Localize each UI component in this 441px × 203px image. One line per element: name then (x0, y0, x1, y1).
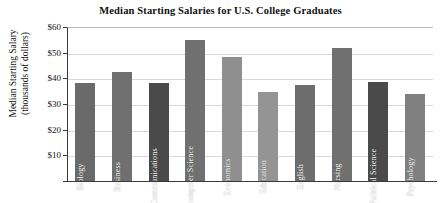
bar-category-label: Computer Science (186, 146, 195, 203)
y-axis-tick-labels: $10$20$30$40$50$60 (33, 0, 61, 203)
y-axis-title-line-1: Median Starting Salary (8, 12, 20, 136)
y-axis-tick-label: $20 (33, 125, 61, 135)
bar[interactable]: Computer Science (185, 40, 205, 181)
bar-chart-figure: Median Starting Salaries for U.S. Colleg… (0, 0, 441, 203)
bar[interactable]: Education (258, 92, 278, 181)
x-axis-baseline (63, 181, 437, 182)
bar[interactable]: Political Science (368, 82, 388, 181)
y-axis-tick-label: $10 (33, 150, 61, 160)
bar-category-label: Business (113, 162, 122, 192)
bar[interactable]: Economics (222, 57, 242, 181)
bar-category-label: Political Science (369, 149, 378, 203)
bars-layer: BiologyBusinessCommunicationsComputer Sc… (67, 27, 433, 181)
bar-category-label: Economics (223, 158, 232, 195)
bar-category-label: English (296, 164, 305, 190)
bar-category-label: Psychology (406, 157, 415, 196)
y-axis-title: Median Starting Salary (thousands of dol… (8, 12, 31, 136)
bar[interactable]: Biology (75, 83, 95, 181)
y-axis-tick-label: $30 (33, 99, 61, 109)
bar[interactable]: English (295, 85, 315, 181)
bar[interactable]: Psychology (405, 94, 425, 181)
bar[interactable]: Business (112, 72, 132, 181)
bar[interactable]: Nursing (332, 48, 352, 181)
bar-category-label: Nursing (333, 163, 342, 190)
y-axis-tick-label: $40 (33, 73, 61, 83)
y-axis-title-line-2: (thousands of dollars) (19, 12, 31, 136)
bar-category-label: Biology (76, 163, 85, 190)
y-axis-tick-label: $60 (33, 22, 61, 32)
y-axis-tick-label: $50 (33, 48, 61, 58)
bar-category-label: Communications (150, 148, 159, 203)
bar[interactable]: Communications (149, 83, 169, 181)
bar-category-label: Education (259, 160, 268, 194)
